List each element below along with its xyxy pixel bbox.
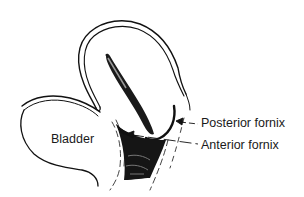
anatomy-diagram: Bladder Posterior fornix Anterior fornix: [0, 0, 304, 197]
posterior-fornix-curve: [146, 106, 174, 140]
bladder-label: Bladder: [51, 133, 94, 146]
diagram-drawing: [0, 0, 304, 197]
cervical-canal-highlight: [108, 58, 126, 88]
bladder-outer-2: [24, 100, 98, 116]
posterior-wall: [186, 94, 190, 110]
posterior-fornix-arrow: [176, 118, 183, 125]
bladder-body: [21, 110, 98, 186]
posterior-fornix-label: Posterior fornix: [201, 117, 285, 130]
anterior-fornix-label: Anterior fornix: [201, 139, 279, 152]
